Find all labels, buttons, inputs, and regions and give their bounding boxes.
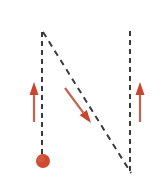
pendulum-bob-group [36, 154, 50, 168]
vector-diagram-svg [0, 0, 161, 188]
figure-root [0, 0, 161, 188]
pendulum-bob-highlight [38, 155, 45, 162]
